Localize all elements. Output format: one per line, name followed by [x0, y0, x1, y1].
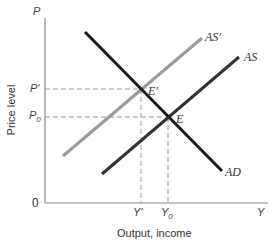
y-axis-symbol: P	[33, 5, 40, 17]
as-prime-label: AS'	[205, 30, 221, 45]
e-point-label: E	[176, 112, 183, 127]
as-prime-curve	[63, 38, 202, 156]
ad-label: AD	[225, 165, 241, 180]
ad-curve	[85, 32, 222, 171]
as-curve	[102, 57, 239, 174]
p-prime-tick: P'	[30, 82, 39, 94]
origin-label: 0	[32, 196, 39, 210]
as-label: AS	[244, 50, 257, 65]
y-axis-label: Price level	[5, 85, 17, 136]
e-prime-point-label: E'	[148, 84, 158, 99]
y0-tick: Y0	[161, 206, 173, 221]
aggregate-supply-demand-diagram: P Y 0 Price level Output, income P' P0 Y…	[0, 0, 278, 244]
x-axis-label: Output, income	[117, 227, 192, 239]
p0-tick: P0	[29, 109, 41, 124]
x-axis-symbol: Y	[257, 206, 264, 218]
y-prime-tick: Y'	[133, 206, 142, 218]
